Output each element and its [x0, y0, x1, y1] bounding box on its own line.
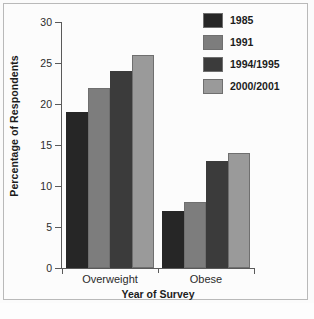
x-axis-label: Year of Survey — [62, 288, 254, 300]
bar — [110, 71, 132, 268]
bar — [184, 202, 206, 268]
legend-label: 1994/1995 — [230, 58, 280, 70]
chart-legend: 198519911994/19952000/2001 — [203, 9, 303, 97]
legend-swatch — [203, 57, 223, 72]
legend-label: 1991 — [230, 36, 253, 48]
legend-item: 2000/2001 — [203, 75, 303, 97]
y-axis-tick — [55, 268, 61, 269]
legend-swatch — [203, 13, 223, 28]
x-axis-category-label: Obese — [158, 273, 254, 285]
y-axis-tick — [55, 63, 61, 64]
bar — [206, 161, 228, 268]
legend-swatch — [203, 79, 223, 94]
chart-figure: 051015202530 Percentage of Respondents O… — [0, 0, 314, 319]
legend-swatch — [203, 35, 223, 50]
bar — [88, 88, 110, 268]
x-axis-tick — [254, 269, 255, 274]
bar — [228, 153, 250, 268]
x-axis-category-label: Overweight — [62, 273, 158, 285]
x-axis-tick — [62, 269, 63, 274]
bar — [162, 211, 184, 268]
y-axis-tick — [55, 104, 61, 105]
legend-label: 2000/2001 — [230, 80, 280, 92]
y-axis-tick-label: 0 — [12, 263, 52, 273]
x-axis-tick — [158, 269, 159, 273]
y-axis-tick — [55, 145, 61, 146]
bar — [66, 112, 88, 268]
y-axis-label: Percentage of Respondents — [8, 16, 20, 236]
legend-item: 1985 — [203, 9, 303, 31]
y-axis-tick — [55, 186, 61, 187]
legend-item: 1994/1995 — [203, 53, 303, 75]
legend-item: 1991 — [203, 31, 303, 53]
legend-label: 1985 — [230, 14, 253, 26]
figure-bottom-band — [0, 303, 314, 319]
bar — [132, 55, 154, 268]
y-axis-tick — [55, 22, 61, 23]
y-axis-tick — [55, 227, 61, 228]
